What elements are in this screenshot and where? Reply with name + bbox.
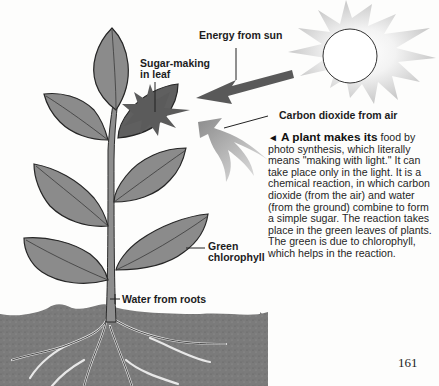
label-energy-from-sun: Energy from sun bbox=[199, 30, 282, 41]
label-sugar-making: Sugar-making in leaf bbox=[140, 58, 210, 80]
stem bbox=[106, 98, 118, 322]
page-number: 161 bbox=[398, 355, 418, 371]
co2-arrow-icon bbox=[198, 116, 268, 182]
label-carbon-dioxide: Carbon dioxide from air bbox=[279, 110, 397, 121]
label-sugar-line2: in leaf bbox=[140, 69, 210, 80]
caption-body: food by photo synthesis, which literally… bbox=[268, 131, 432, 259]
label-water-from-roots: Water from roots bbox=[122, 294, 206, 305]
energy-arrow-icon bbox=[196, 48, 294, 104]
left-triangle-icon: ◄ bbox=[268, 132, 278, 143]
caption: ◄A plant makes its food by photo synthes… bbox=[268, 132, 433, 260]
soil bbox=[0, 304, 268, 386]
label-green-line2: chlorophyll bbox=[208, 252, 265, 263]
textbook-page: Energy from sun Sugar-making in leaf Car… bbox=[0, 0, 439, 386]
label-green-chlorophyll: Green chlorophyll bbox=[208, 241, 265, 263]
sun-icon bbox=[288, 0, 436, 104]
